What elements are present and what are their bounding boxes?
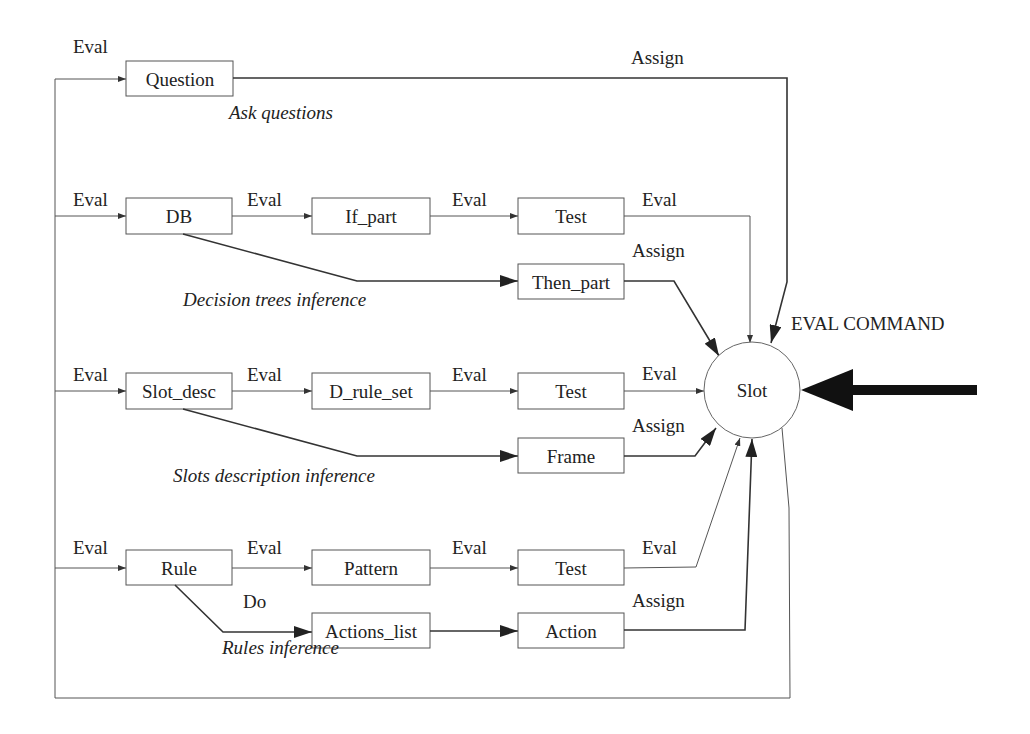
caption-slots-description: Slots description inference — [173, 465, 375, 486]
edge-label-do: Do — [243, 591, 266, 612]
caption-ask-questions: Ask questions — [227, 102, 333, 123]
question-row: Eval Question Ask questions Assign — [73, 36, 787, 343]
node-d-rule-set-label: D_rule_set — [329, 381, 413, 402]
slots-description-row: Eval Slot_desc Eval D_rule_set Eval Test… — [73, 363, 716, 486]
node-actions-list-label: Actions_list — [325, 621, 418, 642]
node-pattern[interactable]: Pattern — [312, 550, 430, 585]
decision-trees-row: Eval DB Eval If_part Eval Test Eval Then… — [73, 189, 750, 356]
edge-label-eval: Eval — [452, 537, 487, 558]
node-action[interactable]: Action — [518, 613, 624, 648]
node-then-part[interactable]: Then_part — [518, 264, 624, 299]
node-frame-label: Frame — [547, 446, 596, 467]
node-slot-label: Slot — [737, 380, 768, 401]
edge-label-eval: Eval — [452, 189, 487, 210]
node-then-part-label: Then_part — [532, 272, 611, 293]
edge-label-assign: Assign — [632, 240, 685, 261]
node-db[interactable]: DB — [126, 198, 232, 234]
node-if-part-label: If_part — [345, 206, 397, 227]
edge-label-assign: Assign — [632, 590, 685, 611]
edge-label-eval: Eval — [73, 189, 108, 210]
node-rule[interactable]: Rule — [126, 550, 232, 585]
edge-label-eval: Eval — [452, 364, 487, 385]
node-question-label: Question — [146, 69, 215, 90]
node-test-r[interactable]: Test — [518, 550, 624, 585]
edge-label-eval: Eval — [73, 364, 108, 385]
node-if-part[interactable]: If_part — [312, 198, 430, 234]
edge-label-eval: Eval — [247, 537, 282, 558]
edge-label-eval: Eval — [642, 363, 677, 384]
edge-label-eval: Eval — [642, 537, 677, 558]
node-test-dt[interactable]: Test — [518, 198, 624, 234]
node-pattern-label: Pattern — [344, 558, 398, 579]
edge-label-eval: Eval — [247, 189, 282, 210]
eval-command-label: EVAL COMMAND — [791, 313, 945, 334]
node-test-dt-label: Test — [555, 206, 587, 227]
eval-command-arrow-icon — [801, 369, 977, 411]
edge-label-assign: Assign — [632, 415, 685, 436]
node-rule-label: Rule — [161, 558, 197, 579]
edge-label-eval: Eval — [73, 36, 108, 57]
node-frame[interactable]: Frame — [518, 438, 624, 473]
caption-rules: Rules inference — [221, 637, 339, 658]
eval-command: EVAL COMMAND — [791, 313, 977, 411]
caption-decision-trees: Decision trees inference — [182, 289, 366, 310]
node-test-sd-label: Test — [555, 381, 587, 402]
node-action-label: Action — [545, 621, 597, 642]
node-test-sd[interactable]: Test — [518, 373, 624, 409]
node-d-rule-set[interactable]: D_rule_set — [312, 373, 430, 409]
node-db-label: DB — [166, 206, 192, 227]
edge-label-assign: Assign — [631, 47, 684, 68]
edge-label-eval: Eval — [73, 537, 108, 558]
edge-label-eval: Eval — [247, 364, 282, 385]
inference-diagram: Eval Question Ask questions Assign Eval … — [0, 0, 1030, 734]
node-question[interactable]: Question — [126, 61, 233, 96]
edge-label-eval: Eval — [642, 189, 677, 210]
node-slot-desc-label: Slot_desc — [142, 381, 216, 402]
node-slot-desc[interactable]: Slot_desc — [126, 373, 232, 409]
node-slot[interactable]: Slot — [704, 342, 800, 438]
node-test-r-label: Test — [555, 558, 587, 579]
